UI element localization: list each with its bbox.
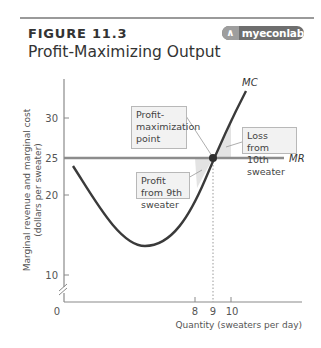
mr-label: MR xyxy=(289,153,305,164)
y-axis-title-line2: (dollars per sweater) xyxy=(33,143,43,237)
callout-profit-max: Profit-maximization point xyxy=(131,106,187,149)
y-axis-title-line1: Marginal revenue and marginal cost xyxy=(22,108,32,271)
x-axis-title: Quantity (sweaters per day) xyxy=(175,320,302,330)
mc-label: MC xyxy=(242,77,258,88)
x-tick-label: 8 xyxy=(192,306,198,317)
y-tick-label: 25 xyxy=(45,153,58,164)
profit-max-point xyxy=(209,154,217,162)
x-tick-label: 0 xyxy=(54,306,60,317)
x-tick-label: 10 xyxy=(226,306,239,317)
y-tick-label: 20 xyxy=(45,190,58,201)
x-tick-label: 9 xyxy=(210,306,216,317)
y-tick-label: 30 xyxy=(45,113,58,124)
callout-loss-10th: Loss from 10th sweater xyxy=(242,127,297,154)
axis-break-2 xyxy=(59,288,67,295)
axis-break-1 xyxy=(59,284,67,291)
y-tick-label: 10 xyxy=(45,270,58,281)
callout-profit-9th: Profit from 9th sweater xyxy=(136,172,190,199)
